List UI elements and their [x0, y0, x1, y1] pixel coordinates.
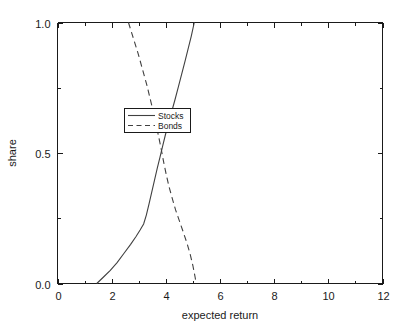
y-axis-title: share — [6, 139, 18, 167]
x-tick-label: 4 — [163, 290, 169, 302]
y-tick-label: 0.5 — [35, 148, 50, 160]
legend-label-bonds: Bonds — [158, 121, 182, 131]
x-tick-label: 12 — [377, 290, 389, 302]
chart-figure: 0246810120.00.51.0 expected return share… — [0, 0, 399, 330]
plot-frame — [58, 23, 383, 284]
series-line-stocks — [97, 23, 195, 284]
y-tick-label: 0.0 — [35, 279, 50, 291]
legend-label-stocks: Stocks — [158, 111, 184, 121]
series-line-bonds — [128, 23, 196, 284]
tick-marks — [58, 23, 384, 285]
x-tick-label: 2 — [109, 290, 115, 302]
x-axis-title: expected return — [182, 309, 258, 321]
x-tick-label: 0 — [55, 290, 61, 302]
axis-frame-box — [58, 23, 383, 284]
x-tick-label: 10 — [322, 290, 334, 302]
y-tick-label: 1.0 — [35, 18, 50, 30]
tick-labels: 0246810120.00.51.0 — [35, 18, 389, 302]
data-series-layer — [97, 23, 196, 284]
plot-canvas: 0246810120.00.51.0 expected return share… — [0, 0, 399, 330]
x-tick-label: 8 — [271, 290, 277, 302]
legend: Stocks Bonds — [125, 109, 191, 133]
x-tick-label: 6 — [217, 290, 223, 302]
